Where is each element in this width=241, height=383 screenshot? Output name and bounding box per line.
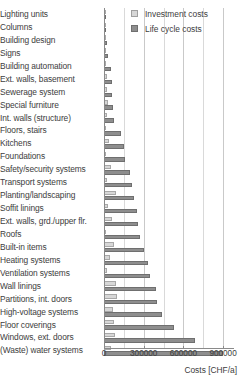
bar-chart: Lighting unitsColumnsBuilding designSign… [0, 0, 241, 383]
bar-row [104, 267, 231, 280]
category-label: Ventilation systems [0, 267, 99, 280]
bar-investment [104, 307, 113, 311]
bar-lifecycle [104, 67, 111, 71]
bar-investment [104, 333, 115, 337]
category-label: Transport systems [0, 176, 99, 189]
category-label: High-voltage systems [0, 306, 99, 319]
category-label: Int. walls (structure) [0, 112, 99, 125]
legend: Investment costs Life cycle costs [131, 6, 208, 36]
bar-lifecycle [104, 80, 112, 84]
legend-label-investment: Investment costs [145, 9, 208, 19]
category-label: Wall linings [0, 280, 99, 293]
category-label: Ext. walls, grd./upper flr. [0, 215, 99, 228]
bar-investment [104, 242, 114, 246]
category-label: Heating systems [0, 254, 99, 267]
bar-row [104, 306, 231, 319]
bar-row [104, 86, 231, 99]
tick-label: 300000 [130, 349, 157, 358]
tick-label: 900000 [209, 349, 236, 358]
bar-row [104, 47, 231, 60]
bar-lifecycle [104, 325, 174, 329]
bar-lifecycle [104, 222, 138, 226]
legend-label-lifecycle: Life cycle costs [145, 24, 202, 34]
bar-row [104, 137, 231, 150]
bar-row [104, 215, 231, 228]
category-label: Columns [0, 21, 99, 34]
category-label: Floors, stairs [0, 124, 99, 137]
bar-lifecycle [104, 235, 140, 239]
bar-lifecycle [104, 261, 148, 265]
category-label: (Waste) water systems [0, 344, 99, 357]
bar-row [104, 60, 231, 73]
bar-row [104, 176, 231, 189]
y-axis-line [104, 8, 105, 349]
bar-investment [104, 165, 111, 169]
bar-row [104, 319, 231, 332]
bar-row [104, 228, 231, 241]
bar-row [104, 254, 231, 267]
bar-lifecycle [104, 183, 132, 187]
category-label: Safety/security systems [0, 163, 99, 176]
category-label: Special furniture [0, 99, 99, 112]
category-label: Windows, ext. doors [0, 331, 99, 344]
plot-area [104, 8, 231, 349]
legend-swatch-investment-icon [131, 10, 138, 17]
bar-lifecycle [104, 157, 125, 161]
bar-rows [104, 8, 231, 349]
bar-lifecycle [104, 209, 137, 213]
bar-lifecycle [104, 338, 195, 342]
bar-lifecycle [104, 248, 144, 252]
bar-row [104, 331, 231, 344]
bar-row [104, 112, 231, 125]
x-axis-label: Costs [CHF/a] [0, 365, 237, 375]
category-label: Kitchens [0, 137, 99, 150]
tick-label: 600000 [170, 349, 197, 358]
bar-lifecycle [104, 274, 150, 278]
bar-lifecycle [104, 131, 121, 135]
bar-row [104, 150, 231, 163]
category-label: Signs [0, 47, 99, 60]
bar-lifecycle [104, 105, 113, 109]
category-label: Planting/landscaping [0, 189, 99, 202]
bar-row [104, 124, 231, 137]
category-label: Sewerage system [0, 86, 99, 99]
bar-investment [104, 320, 114, 324]
category-label: Built-in items [0, 241, 99, 254]
category-label: Soffit linings [0, 202, 99, 215]
bar-row [104, 73, 231, 86]
bar-row [104, 202, 231, 215]
bar-row [104, 293, 231, 306]
legend-swatch-lifecycle-icon [131, 25, 138, 32]
bar-investment [104, 191, 116, 195]
category-label: Foundations [0, 150, 99, 163]
bar-lifecycle [104, 93, 112, 97]
bar-investment [104, 281, 116, 285]
bar-row [104, 99, 231, 112]
bar-lifecycle [104, 312, 162, 316]
category-label: Building design [0, 34, 99, 47]
bar-investment [104, 217, 112, 221]
x-axis-ticks: 0300000600000900000 [104, 349, 231, 361]
bar-lifecycle [104, 196, 134, 200]
bar-lifecycle [104, 144, 124, 148]
bar-lifecycle [104, 287, 156, 291]
bar-lifecycle [104, 170, 130, 174]
category-label: Floor coverings [0, 319, 99, 332]
bar-row [104, 163, 231, 176]
legend-item-investment: Investment costs [131, 6, 208, 21]
bar-row [104, 280, 231, 293]
category-label-column: Lighting unitsColumnsBuilding designSign… [0, 8, 99, 357]
category-label: Roofs [0, 228, 99, 241]
bar-lifecycle [104, 118, 114, 122]
tick-label: 0 [102, 349, 107, 358]
category-label: Ext. walls, basement [0, 73, 99, 86]
bar-lifecycle [104, 300, 157, 304]
bar-row [104, 189, 231, 202]
category-label: Building automation [0, 60, 99, 73]
category-label: Partitions, int. doors [0, 293, 99, 306]
bar-investment [104, 294, 117, 298]
bar-row [104, 241, 231, 254]
legend-item-lifecycle: Life cycle costs [131, 21, 208, 36]
category-label: Lighting units [0, 8, 99, 21]
